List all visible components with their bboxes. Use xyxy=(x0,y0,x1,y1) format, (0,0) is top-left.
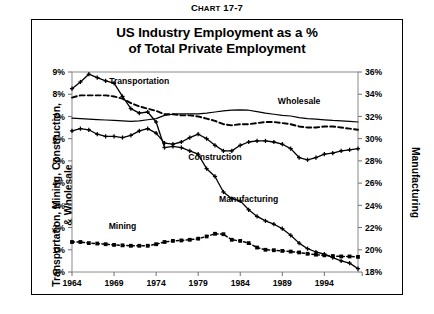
series-marker-plus xyxy=(247,140,251,144)
series-marker-square xyxy=(87,241,91,245)
series-marker-square xyxy=(95,242,99,246)
series-marker-plus xyxy=(78,127,82,131)
series-label-mining: Mining xyxy=(109,221,137,231)
y-axis-right-tick-label: 20% xyxy=(365,245,383,255)
series-marker-square xyxy=(222,232,226,236)
series-marker-square xyxy=(331,254,335,258)
series-marker-plus xyxy=(331,151,335,155)
x-axis-tick-label: 1964 xyxy=(62,278,81,288)
series-marker-square xyxy=(339,255,343,259)
y-axis-left-tick-label: 7% xyxy=(53,112,66,122)
series-marker-square xyxy=(79,240,83,244)
series-marker-square xyxy=(213,232,217,236)
series-marker-square xyxy=(196,237,200,241)
series-marker-plus xyxy=(263,139,267,143)
x-axis-tick-label: 1984 xyxy=(231,278,250,288)
series-label-wholesale: Wholesale xyxy=(278,96,321,106)
series-marker-square xyxy=(154,242,158,246)
series-marker-plus xyxy=(171,142,175,146)
chart-page: CHART 17-7 US Industry Employment as a %… xyxy=(0,0,434,314)
series-marker-square xyxy=(230,238,234,242)
series-marker-plus xyxy=(104,134,108,138)
series-marker-square xyxy=(188,238,192,242)
series-marker-square xyxy=(171,239,175,243)
y-axis-left-tick-label: 4% xyxy=(53,178,66,188)
series-marker-square xyxy=(179,239,183,243)
y-axis-left-tick-label: 2% xyxy=(53,223,66,233)
x-axis-tick-label: 1994 xyxy=(315,278,334,288)
series-marker-square xyxy=(322,253,326,257)
series-marker-square xyxy=(205,235,209,239)
series-marker-square xyxy=(272,248,276,252)
series-marker-plus xyxy=(112,134,116,138)
series-marker-square xyxy=(348,255,352,259)
series-marker-square xyxy=(356,255,360,259)
y-axis-right-tick-label: 28% xyxy=(365,156,383,166)
y-axis-right-tick-label: 36% xyxy=(365,67,383,77)
y-axis-left-tick-label: 9% xyxy=(53,67,66,77)
series-marker-plus xyxy=(162,145,166,149)
series-marker-plus xyxy=(70,129,74,133)
series-label-transportation: Transportation xyxy=(109,76,169,86)
y-axis-right-tick-label: 34% xyxy=(365,89,383,99)
series-marker-square xyxy=(264,248,268,252)
x-axis-tick-label: 1969 xyxy=(104,278,123,288)
y-axis-left-tick-label: 3% xyxy=(53,201,66,211)
series-marker-plus xyxy=(339,259,343,263)
series-marker-plus xyxy=(356,147,360,151)
series-marker-plus xyxy=(339,149,343,153)
series-marker-plus xyxy=(347,148,351,152)
series-marker-plus xyxy=(255,139,259,143)
series-marker-plus xyxy=(314,155,318,159)
series-marker-square xyxy=(306,252,310,256)
series-marker-plus xyxy=(120,135,124,139)
series-marker-square xyxy=(280,249,284,253)
series-marker-square xyxy=(112,243,116,247)
x-axis-tick-label: 1989 xyxy=(273,278,292,288)
y-axis-left-tick-label: 1% xyxy=(53,245,66,255)
series-marker-square xyxy=(121,243,125,247)
x-axis-tick-label: 1979 xyxy=(189,278,208,288)
series-label-construction: Construction xyxy=(188,152,241,162)
y-axis-right-tick-label: 26% xyxy=(365,178,383,188)
series-marker-square xyxy=(70,240,74,244)
series-marker-square xyxy=(104,242,108,246)
series-marker-plus xyxy=(95,75,99,79)
series-label-manufacturing: Manufacturing xyxy=(219,194,278,204)
series-marker-plus xyxy=(305,158,309,162)
series-marker-square xyxy=(163,240,167,244)
series-marker-square xyxy=(129,244,133,248)
y-axis-left-tick-label: 8% xyxy=(53,89,66,99)
x-axis-tick-label: 1974 xyxy=(147,278,166,288)
series-marker-square xyxy=(314,253,318,257)
y-axis-right-tick-label: 24% xyxy=(365,201,383,211)
y-axis-right-tick-label: 18% xyxy=(365,267,383,277)
y-axis-right-tick-label: 30% xyxy=(365,134,383,144)
series-marker-square xyxy=(289,250,293,254)
series-marker-plus xyxy=(104,79,108,83)
series-marker-plus xyxy=(322,152,326,156)
y-axis-right-tick-label: 32% xyxy=(365,112,383,122)
series-marker-square xyxy=(255,246,259,250)
series-marker-plus xyxy=(272,140,276,144)
series-marker-square xyxy=(238,239,242,243)
y-axis-left-tick-label: 5% xyxy=(53,156,66,166)
y-axis-left-tick-label: 6% xyxy=(53,134,66,144)
y-axis-left-tick-label: 0% xyxy=(53,267,66,277)
series-marker-square xyxy=(137,244,141,248)
series-marker-square xyxy=(146,244,150,248)
plot-area: 0%1%2%3%4%5%6%7%8%9%18%20%22%24%26%28%30… xyxy=(0,0,434,314)
series-marker-square xyxy=(247,241,251,245)
series-marker-plus xyxy=(179,145,183,149)
series-marker-square xyxy=(297,251,301,255)
y-axis-right-tick-label: 22% xyxy=(365,223,383,233)
chart-svg: 0%1%2%3%4%5%6%7%8%9%18%20%22%24%26%28%30… xyxy=(0,0,434,314)
